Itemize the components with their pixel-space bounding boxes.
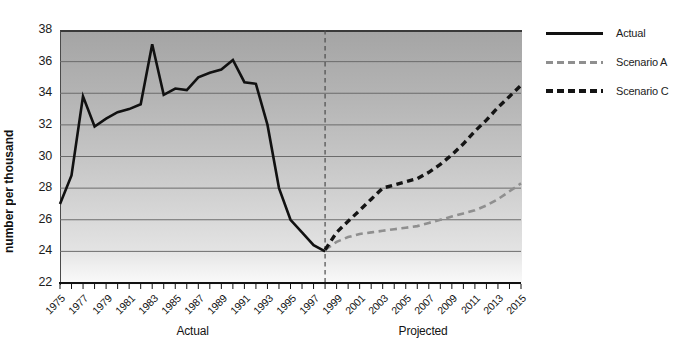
legend: Actual Scenario A Scenario C <box>546 27 676 114</box>
y-tick-label: 34 <box>16 85 52 99</box>
legend-label: Scenario C <box>616 85 668 97</box>
legend-line-sample-dashed-gray <box>546 61 603 64</box>
y-axis-title: number per thousand <box>2 112 16 270</box>
legend-line-sample-dashed-black <box>546 89 603 93</box>
y-tick-label: 22 <box>16 275 52 289</box>
series-line-scenario-c <box>325 85 521 250</box>
legend-item-scenario-a: Scenario A <box>546 56 676 68</box>
x-section-label-actual: Actual <box>176 324 208 338</box>
legend-label: Actual <box>616 27 645 39</box>
series-line-actual <box>60 44 325 251</box>
x-section-label-projected: Projected <box>399 324 448 338</box>
y-tick-label: 28 <box>16 180 52 194</box>
line-chart-figure: number per thousand 383634323028262422 1… <box>0 0 678 355</box>
y-tick-label: 36 <box>16 54 52 68</box>
y-tick-label: 30 <box>16 149 52 163</box>
y-tick-label: 26 <box>16 212 52 226</box>
y-tick-label: 24 <box>16 243 52 257</box>
y-tick-label: 32 <box>16 117 52 131</box>
legend-line-sample-solid <box>546 32 603 35</box>
legend-item-scenario-c: Scenario C <box>546 85 676 97</box>
legend-label: Scenario A <box>616 56 667 68</box>
legend-item-actual: Actual <box>546 27 676 39</box>
y-tick-label: 38 <box>16 22 52 36</box>
